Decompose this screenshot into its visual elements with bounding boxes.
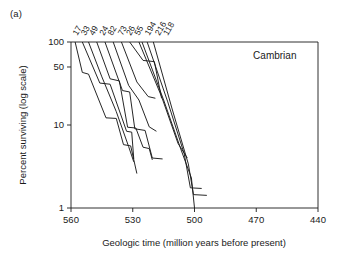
y-axis-title: Percent surviving (log scale)	[17, 65, 28, 184]
x-axis-ticks	[71, 208, 318, 212]
y-axis-tick-labels: 10050101	[48, 36, 64, 213]
x-axis-title: Geologic time (million years before pres…	[102, 237, 286, 248]
survivorship-curve	[153, 42, 207, 195]
x-axis-tick-labels: 560530500470440	[63, 214, 326, 225]
y-tick-label: 10	[53, 119, 64, 130]
survivorship-chart: 10050101 560530500470440 173349248273265…	[0, 0, 346, 261]
survivorship-curve	[97, 42, 153, 160]
cambrian-label: Cambrian	[253, 50, 296, 61]
x-tick-label: 440	[310, 214, 326, 225]
survivorship-curves	[75, 42, 207, 208]
panel-label: (a)	[10, 8, 22, 19]
figure-panel-a: (a) 10050101 560530500470440 17334924827…	[0, 0, 346, 261]
x-tick-label: 500	[187, 214, 203, 225]
chart-annotations: Cambrian	[253, 50, 296, 61]
cohort-labels: 1733492482732655194216118	[70, 19, 176, 37]
plot-frame	[71, 42, 318, 208]
y-tick-label: 100	[48, 36, 64, 47]
survivorship-curve	[82, 42, 133, 159]
survivorship-curve	[105, 42, 163, 159]
x-tick-label: 530	[125, 214, 141, 225]
y-axis-ticks	[67, 42, 71, 208]
y-tick-label: 50	[53, 61, 64, 72]
x-tick-label: 560	[63, 214, 79, 225]
survivorship-curve	[75, 42, 137, 174]
x-tick-label: 470	[248, 214, 264, 225]
survivorship-curve	[142, 42, 194, 208]
y-tick-label: 1	[59, 202, 64, 213]
survivorship-curve	[113, 42, 156, 131]
